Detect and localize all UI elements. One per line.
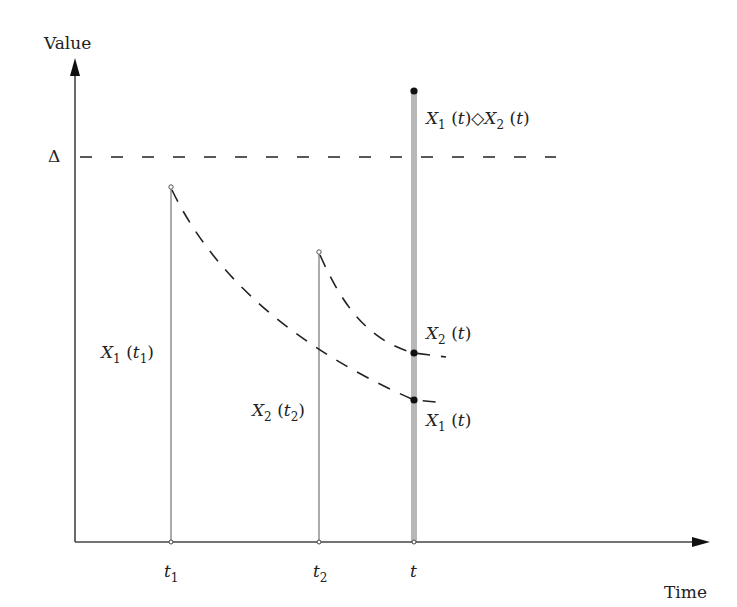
y-axis-arrow-icon <box>70 58 80 76</box>
diagram-canvas: Value Time Δ t1 t2 t X1 (t1) X2 (t2) X2 … <box>0 0 737 607</box>
x-axis-arrow-icon <box>692 537 710 547</box>
threshold-label: Δ <box>48 148 60 165</box>
combined-value-dot <box>410 87 417 94</box>
label-x1-t1: X1 (t1) <box>101 344 154 365</box>
label-x1-t: X1 (t) <box>426 412 471 433</box>
impulse-t2-top <box>317 250 321 254</box>
x1-t-dot <box>410 396 417 403</box>
tick-label-t1: t1 <box>164 563 178 584</box>
tick-label-t: t <box>410 563 417 580</box>
label-x2-t2: X2 (t2) <box>252 402 305 423</box>
diagram-graphics <box>0 0 737 607</box>
tick-t2 <box>317 540 321 544</box>
diamond-operator-icon: ◇ <box>471 108 484 128</box>
impulse-t1-top <box>169 185 173 189</box>
x2-t-dot <box>410 349 417 356</box>
tick-t <box>412 540 416 544</box>
x-axis-label: Time <box>664 584 707 601</box>
label-combined: X1 (t)◇X2 (t) <box>426 110 530 131</box>
tick-t1 <box>169 540 173 544</box>
tick-label-t2: t2 <box>313 563 327 584</box>
current-time-band <box>411 91 417 542</box>
y-axis-label: Value <box>44 35 91 52</box>
label-x2-t: X2 (t) <box>426 325 471 346</box>
decay-curve-x1 <box>172 190 446 403</box>
